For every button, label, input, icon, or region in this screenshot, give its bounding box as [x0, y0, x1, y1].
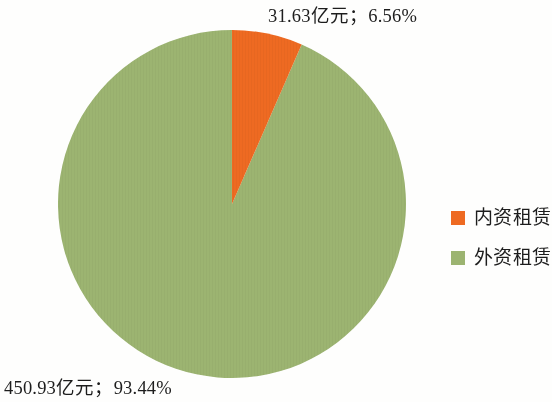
- pie-slice-foreign[interactable]: [58, 30, 406, 378]
- data-label-foreign: 450.93亿元；93.44%: [4, 378, 172, 398]
- chart-legend: 内资租赁 外资租赁: [451, 198, 552, 278]
- pie-chart: 31.63亿元；6.56% 450.93亿元；93.44% 内资租赁 外资租赁: [0, 0, 552, 402]
- pie-svg: [58, 30, 406, 378]
- legend-swatch-foreign-icon: [451, 251, 465, 265]
- legend-label-foreign: 外资租赁: [474, 248, 551, 268]
- legend-item-foreign[interactable]: 外资租赁: [451, 238, 552, 278]
- data-label-domestic: 31.63亿元；6.56%: [268, 6, 417, 26]
- legend-label-domestic: 内资租赁: [474, 208, 551, 228]
- legend-item-domestic[interactable]: 内资租赁: [451, 198, 552, 238]
- pie-graphic: [58, 30, 406, 378]
- legend-swatch-domestic-icon: [451, 211, 465, 225]
